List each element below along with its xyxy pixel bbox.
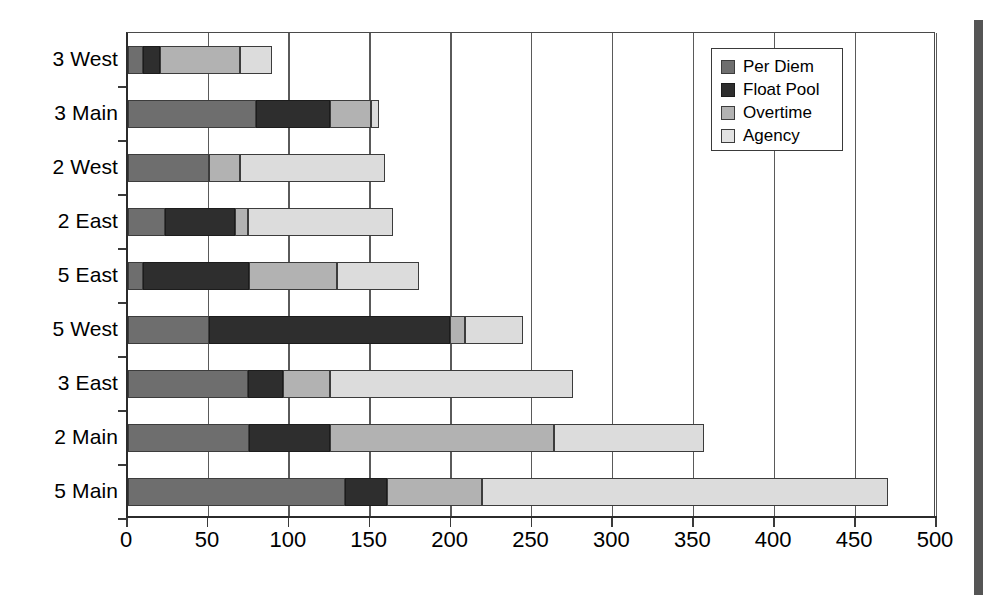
- bar-segment: [128, 370, 248, 398]
- x-axis-tick: [935, 518, 937, 527]
- y-axis-label: 2 West: [0, 156, 118, 177]
- bar-segment: [249, 424, 330, 452]
- bar-segment: [240, 154, 386, 182]
- legend-swatch-icon-float-pool: [721, 83, 735, 97]
- scan-edge-artifact: [974, 20, 983, 595]
- bar-segment: [128, 424, 249, 452]
- bar-row: [128, 316, 937, 344]
- bar-segment: [165, 208, 235, 236]
- y-axis-tick: [118, 410, 126, 412]
- legend-item-overtime: Overtime: [721, 101, 842, 124]
- y-axis-tick: [118, 140, 126, 142]
- bar-segment: [337, 262, 420, 290]
- bar-segment: [330, 370, 573, 398]
- y-axis-label: 3 West: [0, 48, 118, 69]
- y-axis-label: 5 East: [0, 264, 118, 285]
- bar-segment: [160, 46, 239, 74]
- x-axis-label: 250: [496, 529, 566, 551]
- bar-segment: [128, 154, 209, 182]
- bar-segment: [330, 424, 553, 452]
- bar-row: [128, 424, 937, 452]
- y-axis-tick: [118, 518, 126, 520]
- y-axis-tick: [118, 464, 126, 466]
- bar-segment: [143, 262, 250, 290]
- y-axis-tick: [118, 356, 126, 358]
- y-axis-label: 5 West: [0, 318, 118, 339]
- x-axis-label: 200: [415, 529, 485, 551]
- legend-item-per-diem: Per Diem: [721, 55, 842, 78]
- x-axis-label: 350: [657, 529, 727, 551]
- x-axis-tick: [854, 518, 856, 527]
- bar-segment: [143, 46, 161, 74]
- legend-swatch-icon-agency: [721, 129, 735, 143]
- bar-segment: [248, 370, 284, 398]
- x-axis-tick: [126, 518, 128, 527]
- bar-segment: [128, 100, 256, 128]
- x-axis-label: 50: [172, 529, 242, 551]
- legend-label-overtime: Overtime: [743, 104, 812, 121]
- x-axis-label: 100: [253, 529, 323, 551]
- x-axis-tick: [611, 518, 613, 527]
- x-axis-label: 450: [819, 529, 889, 551]
- bar-segment: [554, 424, 704, 452]
- bar-segment: [128, 478, 345, 506]
- x-axis-tick: [207, 518, 209, 527]
- x-axis-label: 500: [900, 529, 970, 551]
- bar-segment: [128, 316, 209, 344]
- bar-segment: [128, 262, 143, 290]
- legend-item-agency: Agency: [721, 124, 842, 147]
- legend-label-agency: Agency: [743, 127, 800, 144]
- x-axis-label: 150: [334, 529, 404, 551]
- x-axis-tick: [288, 518, 290, 527]
- y-axis-label: 2 Main: [0, 426, 118, 447]
- bar-segment: [371, 100, 379, 128]
- y-axis-tick: [118, 194, 126, 196]
- bar-segment: [249, 262, 336, 290]
- bar-segment: [387, 478, 482, 506]
- x-axis-tick: [531, 518, 533, 527]
- bar-segment: [283, 370, 330, 398]
- bar-row: [128, 370, 937, 398]
- y-axis-label: 3 East: [0, 372, 118, 393]
- legend-label-float-pool: Float Pool: [743, 81, 820, 98]
- bar-segment: [128, 208, 165, 236]
- bar-segment: [450, 316, 465, 344]
- y-axis-label: 3 Main: [0, 102, 118, 123]
- y-axis-label: 5 Main: [0, 480, 118, 501]
- bar-segment: [345, 478, 387, 506]
- x-axis-tick: [773, 518, 775, 527]
- y-axis-tick: [118, 302, 126, 304]
- bar-segment: [330, 100, 370, 128]
- bar-segment: [235, 208, 248, 236]
- bar-segment: [256, 100, 330, 128]
- legend-swatch-icon-per-diem: [721, 60, 735, 74]
- bar-row: [128, 154, 937, 182]
- y-axis-label: 2 East: [0, 210, 118, 231]
- legend-item-float-pool: Float Pool: [721, 78, 842, 101]
- bar-segment: [209, 316, 450, 344]
- x-axis-label: 0: [91, 529, 161, 551]
- x-axis-tick: [450, 518, 452, 527]
- bar-segment: [240, 46, 272, 74]
- legend-label-per-diem: Per Diem: [743, 58, 814, 75]
- bar-segment: [248, 208, 394, 236]
- chart-legend: Per Diem Float Pool Overtime Agency: [711, 48, 843, 151]
- y-axis-tick: [118, 86, 126, 88]
- stacked-bar-chart: 3 West3 Main2 West2 East5 East5 West3 Ea…: [0, 0, 1002, 607]
- x-axis-tick: [369, 518, 371, 527]
- bar-row: [128, 478, 937, 506]
- bar-row: [128, 208, 937, 236]
- bar-segment: [482, 478, 888, 506]
- x-axis-label: 400: [738, 529, 808, 551]
- y-axis-tick: [118, 248, 126, 250]
- x-axis-label: 300: [576, 529, 646, 551]
- bar-segment: [465, 316, 523, 344]
- legend-swatch-icon-overtime: [721, 106, 735, 120]
- bar-segment: [209, 154, 240, 182]
- bar-segment: [128, 46, 143, 74]
- bar-row: [128, 262, 937, 290]
- x-axis-tick: [692, 518, 694, 527]
